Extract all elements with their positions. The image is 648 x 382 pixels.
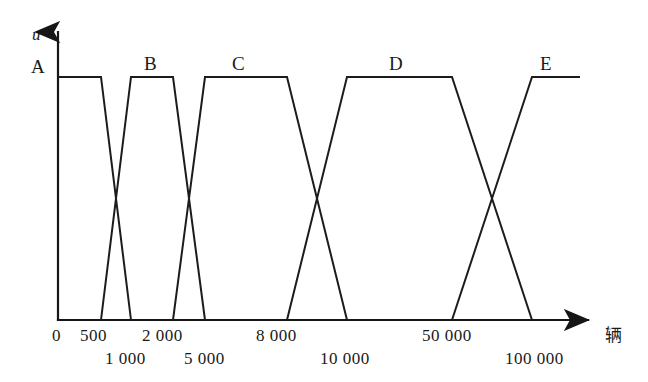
set-label-a: A xyxy=(31,57,45,76)
x-tick-label-2000: 2 000 xyxy=(142,327,183,344)
x-tick-label-500: 500 xyxy=(80,327,107,344)
membership-curve-e xyxy=(452,77,580,320)
x-tick-label-5000: 5 000 xyxy=(184,350,225,367)
x-tick-label-50000: 50 000 xyxy=(422,327,472,344)
x-tick-label-8000: 8 000 xyxy=(256,327,297,344)
set-label-c: C xyxy=(232,54,245,73)
x-tick-label-0: 0 xyxy=(52,327,61,344)
set-label-b: B xyxy=(144,54,157,73)
x-tick-label-10000: 10 000 xyxy=(320,350,370,367)
set-label-e: E xyxy=(540,54,552,73)
membership-curve-a xyxy=(58,77,131,320)
set-label-d: D xyxy=(389,54,403,73)
membership-function-figure: u A B C D E 0 500 2 000 8 000 50 000 1 0… xyxy=(0,0,648,382)
x-tick-label-100000: 100 000 xyxy=(505,350,564,367)
y-axis-label: u xyxy=(32,26,41,43)
membership-curve-d xyxy=(287,77,532,320)
x-axis-unit-label: 辆 xyxy=(605,327,622,344)
x-tick-label-1000: 1 000 xyxy=(105,350,146,367)
membership-curve-c xyxy=(173,77,347,320)
